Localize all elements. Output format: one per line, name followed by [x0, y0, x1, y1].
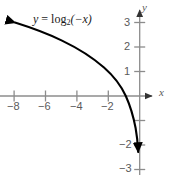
- x-tick-label--8: −8: [7, 101, 20, 112]
- x-tick-label--4: −4: [70, 101, 83, 112]
- y-axis-label: y: [142, 2, 147, 13]
- x-axis-label: x: [159, 87, 164, 98]
- y-tick-label-3: 3: [124, 17, 130, 28]
- log-function-graph: y = log2(−x) −8 −6 −4 −2 3 2 1 −2 −3 x y: [0, 0, 170, 175]
- equation-annotation: y = log2(−x): [33, 13, 92, 27]
- y-tick-label-2: 2: [124, 41, 130, 52]
- equation-argument: (−x): [70, 12, 91, 26]
- log-curve: [15, 23, 138, 152]
- y-tick-label--2: −2: [119, 139, 132, 150]
- equation-lhs: y: [33, 12, 38, 26]
- y-axis: [134, 10, 145, 175]
- equation-function: log: [51, 12, 66, 26]
- equation-equals: =: [41, 12, 48, 26]
- y-tick-label--3: −3: [119, 163, 132, 174]
- x-tick-label--2: −2: [101, 101, 114, 112]
- x-tick-label--6: −6: [38, 101, 51, 112]
- y-tick-label-1: 1: [124, 66, 130, 77]
